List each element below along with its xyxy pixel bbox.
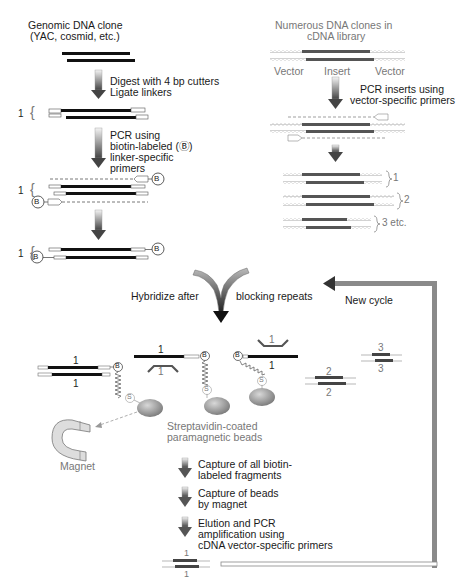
product-label-3: 3 etc. xyxy=(382,217,406,228)
hybrid-3 xyxy=(361,353,402,362)
biotin-icon: B xyxy=(154,244,159,253)
brace-icon: { xyxy=(30,104,35,120)
vector-left-label: Vector xyxy=(274,66,304,77)
biotin-icon: B xyxy=(34,197,39,206)
hybrid-label: 1 xyxy=(158,344,164,355)
brace-icon: { xyxy=(30,181,35,197)
cdna-pcr-line2: vector-specific primers xyxy=(350,95,455,106)
beads-label-line2: paramagnetic beads xyxy=(167,432,262,443)
streptavidin-icon: S xyxy=(259,376,264,383)
hybrid-label: 3 xyxy=(378,363,384,374)
cdna-product-2 xyxy=(283,193,403,209)
cdna-product-1 xyxy=(283,171,392,187)
streptavidin-icon: S xyxy=(204,385,209,392)
genomic-clone-dna xyxy=(62,52,135,62)
down-arrow-icon xyxy=(91,70,106,99)
final-product xyxy=(162,559,210,568)
down-arrow-icon xyxy=(91,128,106,168)
hybrid-label: 1 xyxy=(73,355,79,366)
cdna-title-line2: cDNA library xyxy=(307,31,365,42)
step-arrow-2 xyxy=(178,487,192,507)
step2-line2: by magnet xyxy=(198,499,247,510)
genomic-title-line2: (YAC, cosmid, etc.) xyxy=(30,31,120,42)
cdna-pcr-with-primers xyxy=(270,114,405,141)
pcr-step-line4: primers xyxy=(110,163,145,174)
hybridize-left-text: Hybridize after xyxy=(131,291,199,302)
hybrid-label: 1 xyxy=(73,378,79,389)
pcr-fragment-with-primers xyxy=(32,173,164,208)
product-label-2: 2 xyxy=(404,194,410,205)
final-product-bottom-label: 1 xyxy=(184,569,189,579)
product-label-1: 1 xyxy=(393,172,399,183)
hybrid-1-double-strand xyxy=(38,363,163,429)
magnet-icon xyxy=(52,420,90,461)
step3-line3: cDNA vector-specific primers xyxy=(198,540,333,551)
fragment-label: 1 xyxy=(18,248,24,259)
down-arrow-icon xyxy=(328,77,343,109)
vector-right-label: Vector xyxy=(375,66,405,77)
step1-line2: labeled fragments xyxy=(198,470,281,481)
down-arrow-icon xyxy=(91,210,106,240)
final-product-top-label: 1 xyxy=(184,548,189,558)
hybrid-label: 1 xyxy=(269,334,275,345)
ligated-fragment xyxy=(49,108,148,119)
biotinylated-fragment xyxy=(31,243,164,263)
biotin-icon: B xyxy=(235,351,240,358)
new-cycle-label: New cycle xyxy=(345,295,393,306)
biotin-icon: B xyxy=(154,174,159,183)
digest-step-line2: Ligate linkers xyxy=(110,87,172,98)
cdna-product-3 xyxy=(283,216,380,232)
biotin-icon: B xyxy=(33,252,38,261)
hybridize-right-text: blocking repeats xyxy=(236,291,312,302)
hybrid-label: 2 xyxy=(326,366,332,377)
fragment-label: 1 xyxy=(18,108,24,119)
hybrid-label: 3 xyxy=(378,342,384,353)
hybrid-label: 2 xyxy=(326,387,332,398)
step-arrow-1 xyxy=(178,458,192,478)
down-arrow-icon xyxy=(328,145,343,162)
step-arrow-3 xyxy=(178,517,192,537)
biotin-icon: B xyxy=(115,362,120,369)
hybrid-1-biotin-strand-2 xyxy=(234,340,299,406)
insert-label: Insert xyxy=(324,66,350,77)
magnet-label: Magnet xyxy=(60,461,95,472)
streptavidin-icon: S xyxy=(127,393,132,400)
hybrid-2 xyxy=(305,376,356,385)
hybrid-label: 1 xyxy=(269,360,275,371)
biotin-icon: B xyxy=(202,351,207,358)
fragment-label: 1 xyxy=(18,185,24,196)
cdna-clone xyxy=(270,50,405,61)
hybrid-label: 1 xyxy=(158,366,164,377)
